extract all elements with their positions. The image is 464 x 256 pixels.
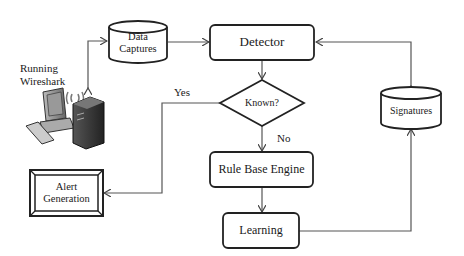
wireshark-label: Running Wireshark (20, 62, 80, 87)
learning-label: Learning (223, 213, 299, 248)
yes-edge-label: Yes (174, 86, 190, 99)
edge-known-alert (104, 103, 220, 193)
known-label: Known? (230, 94, 294, 112)
computer-workstation-icon (26, 88, 104, 149)
rule-base-engine-label: Rule Base Engine (210, 152, 313, 187)
alert-generation-label: Alert Generation (35, 181, 98, 205)
edge-detector-signatures (316, 42, 411, 86)
edge-wireshark-datacaptures (88, 41, 107, 88)
detector-label: Detector (210, 25, 314, 60)
data-captures-label-line1: Data (109, 31, 167, 43)
wireshark-label-line2: Wireshark (20, 75, 80, 88)
signatures-label: Signatures (381, 102, 441, 120)
data-captures-label: Data Captures (109, 31, 167, 55)
no-edge-label: No (277, 132, 290, 145)
alert-generation-label-line2: Generation (35, 193, 98, 205)
data-captures-label-line2: Captures (109, 43, 167, 55)
wireshark-label-line1: Running (20, 62, 80, 75)
alert-generation-label-line1: Alert (35, 181, 98, 193)
edge-learning-signatures (299, 129, 411, 231)
